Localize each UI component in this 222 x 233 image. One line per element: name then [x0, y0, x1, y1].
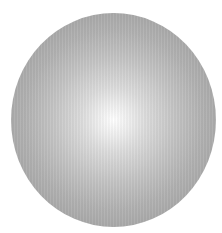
gray-sphere — [11, 13, 216, 227]
canvas — [0, 0, 222, 233]
